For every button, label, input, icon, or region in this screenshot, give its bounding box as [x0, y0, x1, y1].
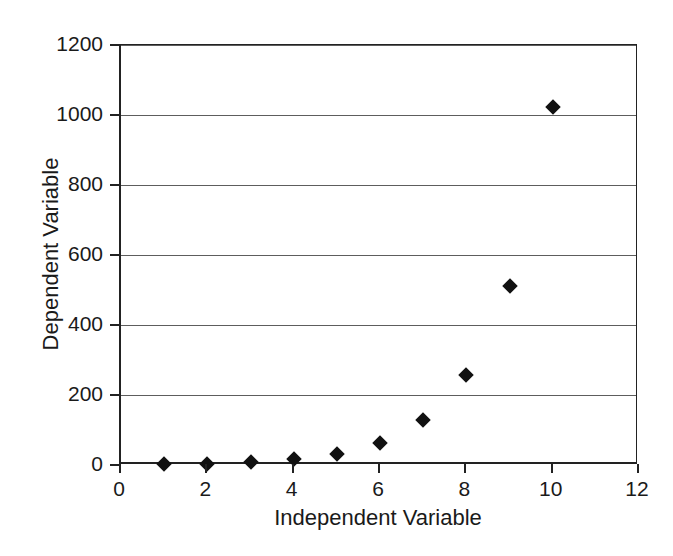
- plot-area: [119, 44, 637, 464]
- x-tick-label-4: 4: [262, 478, 322, 499]
- x-tick-label-12: 12: [607, 478, 667, 499]
- data-point: [200, 456, 216, 472]
- data-point: [286, 452, 302, 468]
- data-point: [372, 435, 388, 451]
- scatter-chart-figure: 020040060080010001200 024681012 Dependen…: [0, 0, 673, 556]
- y-tick-mark-800: [110, 184, 119, 186]
- y-tick-mark-0: [110, 464, 119, 466]
- x-tick-label-0: 0: [89, 478, 149, 499]
- x-tick-label-10: 10: [521, 478, 581, 499]
- data-point: [545, 99, 561, 115]
- gridline-y-1000: [121, 115, 636, 116]
- y-tick-mark-200: [110, 394, 119, 396]
- x-tick-mark-12: [637, 464, 639, 473]
- gridline-y-400: [121, 325, 636, 326]
- y-tick-mark-1200: [110, 44, 119, 46]
- data-point: [329, 446, 345, 462]
- x-axis-title: Independent Variable: [119, 505, 637, 531]
- x-tick-mark-10: [551, 464, 553, 473]
- gridline-y-1200: [121, 45, 636, 46]
- gridline-y-600: [121, 255, 636, 256]
- x-tick-label-8: 8: [434, 478, 494, 499]
- x-tick-label-2: 2: [175, 478, 235, 499]
- x-tick-mark-6: [378, 464, 380, 473]
- data-point: [502, 278, 518, 294]
- x-tick-label-6: 6: [348, 478, 408, 499]
- x-tick-mark-8: [464, 464, 466, 473]
- data-point: [459, 368, 475, 384]
- data-point: [415, 412, 431, 428]
- data-point: [243, 454, 259, 470]
- data-point: [156, 457, 172, 473]
- y-tick-mark-1000: [110, 114, 119, 116]
- y-tick-mark-400: [110, 324, 119, 326]
- gridline-y-800: [121, 185, 636, 186]
- y-axis-title: Dependent Variable: [36, 44, 66, 464]
- gridline-y-200: [121, 395, 636, 396]
- y-tick-mark-600: [110, 254, 119, 256]
- x-tick-mark-0: [119, 464, 121, 473]
